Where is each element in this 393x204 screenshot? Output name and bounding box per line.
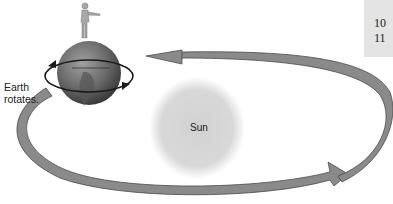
person-icon (81, 3, 100, 38)
side-margin-box: 10 11 (364, 0, 393, 57)
earth-label-line2: rotates. (4, 93, 39, 105)
sun-label: Sun (190, 122, 208, 133)
earth-globe-icon (57, 41, 121, 106)
earth-rotates-label: Earth rotates. (4, 81, 39, 105)
earth-orbit-diagram (0, 0, 393, 204)
earth-label-line1: Earth (4, 81, 39, 93)
line-number-11: 11 (374, 31, 386, 46)
line-number-10: 10 (374, 16, 386, 31)
